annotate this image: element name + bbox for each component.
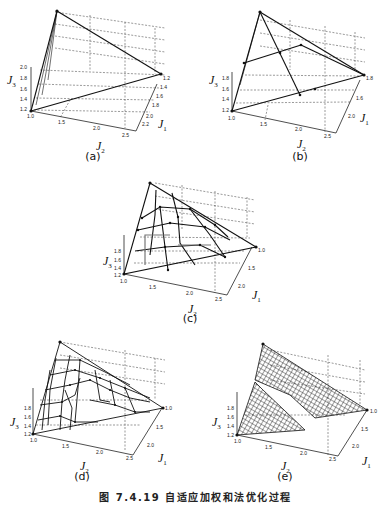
- x-tick: 2.5: [329, 456, 336, 462]
- z-tick: 1.6: [222, 86, 229, 92]
- z-tick: 1.8: [227, 405, 234, 411]
- y-tick: 1.6: [356, 95, 363, 101]
- x-tick: 1.0: [228, 115, 235, 121]
- z-axis-label: J3: [10, 415, 19, 431]
- y-tick: 1.4: [160, 84, 167, 90]
- y-tick: 1.8: [366, 75, 373, 81]
- z-tick: 1.8: [222, 75, 229, 81]
- z-axis-label: J3: [212, 415, 221, 431]
- z-tick: 1.8: [24, 405, 31, 411]
- panel-d: 1.8 1.6 1.4 1.2 1.0 1.5 2.0 2.5 1.0 1.5 …: [0, 330, 195, 485]
- panel-c: 1.8 1.6 1.4 1.2 1.0 1.5 2.0 2.5 1.0 1.5 …: [100, 165, 300, 330]
- y-tick: 2.0: [352, 443, 359, 449]
- plot-d: 1.8 1.6 1.4 1.2 1.0 1.5 2.0 2.5 1.0 1.5 …: [0, 330, 195, 485]
- y-tick: 1.8: [152, 102, 159, 108]
- y-tick: 1.5: [361, 426, 368, 432]
- z-axis-label: J3: [209, 73, 218, 89]
- z-axis-label: J3: [103, 254, 112, 270]
- x-tick: 1.0: [234, 438, 241, 444]
- panel-b: 1.8 1.6 1.4 1.2 1.0 1.5 2.0 2.5 1.8 1.6 …: [200, 0, 391, 165]
- caption-d: (d): [62, 470, 102, 483]
- x-tick: 2.5: [126, 455, 133, 461]
- y-axis-label: J1: [252, 288, 261, 304]
- x-tick: 1.5: [58, 119, 65, 125]
- y-tick: 1.0: [370, 408, 377, 414]
- plot-b: 1.8 1.6 1.4 1.2 1.0 1.5 2.0 2.5 1.8 1.6 …: [200, 0, 391, 165]
- x-tick: 1.5: [265, 444, 272, 450]
- y-tick: 1.2: [163, 75, 170, 81]
- panel-a: 2.0 1.8 1.6 1.4 1.2 1.0 1.5 2.0 2.5 1.2 …: [0, 0, 195, 165]
- y-axis-label: J1: [362, 454, 371, 470]
- x-tick: 1.0: [27, 113, 34, 119]
- x-tick: 2.0: [186, 290, 193, 296]
- x-tick: 1.5: [62, 443, 69, 449]
- y-tick: 1.5: [248, 265, 255, 271]
- y-axis-label: J1: [158, 117, 167, 133]
- y-tick: 1.6: [156, 93, 163, 99]
- y-tick: 2.0: [348, 113, 355, 119]
- z-tick: 1.8: [114, 248, 121, 254]
- x-tick: 2.0: [96, 449, 103, 455]
- z-tick: 1.6: [24, 414, 31, 420]
- y-tick: 2.0: [238, 283, 245, 289]
- x-tick: 1.5: [260, 121, 267, 127]
- z-tick: 1.2: [20, 106, 27, 112]
- z-axis-label: J3: [7, 73, 16, 89]
- z-tick: 2.0: [20, 64, 27, 70]
- x-tick: 2.0: [295, 126, 302, 132]
- y-tick: 1.0: [165, 405, 172, 411]
- z-tick: 1.4: [20, 96, 27, 102]
- y-axis-label: J1: [360, 111, 369, 127]
- x-tick: 2.5: [122, 132, 129, 138]
- y-tick: 2.2: [142, 121, 149, 127]
- caption-e: (e): [265, 470, 305, 483]
- x-tick: 2.0: [93, 125, 100, 131]
- panel-e: 1.8 1.6 1.4 1.2 1.0 1.5 2.0 2.5 1.0 1.5 …: [195, 330, 391, 485]
- x-tick: 2.5: [215, 296, 222, 302]
- z-tick: 1.2: [222, 107, 229, 113]
- z-tick: 1.6: [20, 86, 27, 92]
- y-tick: 1.0: [258, 247, 265, 253]
- caption-b: (b): [280, 150, 320, 163]
- caption-c: (c): [170, 312, 210, 325]
- z-tick: 1.4: [114, 265, 121, 271]
- x-tick: 2.0: [300, 450, 307, 456]
- plot-a: 2.0 1.8 1.6 1.4 1.2 1.0 1.5 2.0 2.5 1.2 …: [0, 0, 195, 165]
- x-tick: 1.0: [30, 437, 37, 443]
- z-tick: 1.6: [227, 414, 234, 420]
- z-tick: 1.4: [24, 423, 31, 429]
- y-axis-label: J1: [158, 451, 167, 467]
- x-tick: 1.0: [120, 278, 127, 284]
- z-tick: 1.8: [20, 75, 27, 81]
- z-tick: 1.4: [222, 96, 229, 102]
- x-tick: 1.5: [149, 284, 156, 290]
- y-tick: 1.5: [156, 424, 163, 430]
- plot-e: 1.8 1.6 1.4 1.2 1.0 1.5 2.0 2.5 1.0 1.5 …: [195, 330, 391, 485]
- figure-title: 图 7.4.19 自适应加权和法优化过程: [0, 489, 391, 504]
- y-tick: 2.0: [146, 113, 153, 119]
- plot-c: 1.8 1.6 1.4 1.2 1.0 1.5 2.0 2.5 1.0 1.5 …: [100, 165, 300, 330]
- x-tick: 2.5: [324, 133, 331, 139]
- caption-a: (a): [73, 150, 113, 163]
- y-tick: 2.0: [147, 442, 154, 448]
- z-tick: 1.6: [114, 257, 121, 263]
- z-tick: 1.4: [227, 423, 234, 429]
